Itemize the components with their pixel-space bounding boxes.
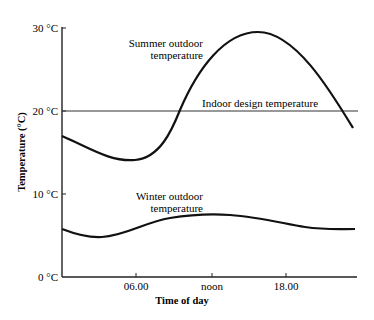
summer-annotation-line2: temperature bbox=[150, 49, 203, 61]
y-label-20: 20 °C bbox=[33, 105, 59, 117]
winter-annotation-line2: temperature bbox=[150, 202, 203, 214]
y-axis-title: Temperature (°C) bbox=[16, 112, 28, 192]
y-label-10: 10 °C bbox=[33, 188, 59, 200]
y-label-0: 0 °C bbox=[38, 271, 58, 283]
indoor-annotation: Indoor design temperature bbox=[202, 97, 318, 109]
winter-annotation-line1: Winter outdoor bbox=[136, 190, 203, 202]
winter-curve bbox=[62, 214, 355, 237]
temperature-chart: 30 °C 20 °C 10 °C 0 °C 06.00 noon 18.00 … bbox=[0, 0, 374, 320]
summer-annotation-line1: Summer outdoor bbox=[129, 37, 204, 49]
x-label-noon: noon bbox=[201, 280, 224, 292]
x-label-18: 18.00 bbox=[274, 280, 299, 292]
x-label-06: 06.00 bbox=[124, 280, 149, 292]
x-axis-title: Time of day bbox=[155, 295, 209, 306]
y-label-30: 30 °C bbox=[33, 22, 59, 34]
